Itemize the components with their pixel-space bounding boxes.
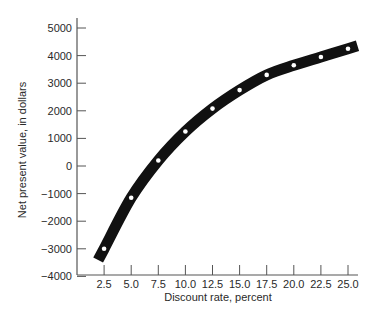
x-tick: 12.5 [202, 265, 223, 290]
y-tick-label: 1000 [48, 132, 72, 144]
npv-line [98, 46, 357, 260]
npv-curve [98, 46, 357, 260]
data-point-marker [210, 106, 215, 111]
x-tick-label: 2.5 [96, 278, 111, 290]
x-ticks: 2.55.07.510.012.515.017.520.022.525.0 [96, 265, 358, 290]
y-tick-label: −1000 [41, 188, 72, 200]
y-tick: 4000 [48, 50, 86, 62]
y-tick: 0 [66, 160, 86, 172]
y-tick-label: −4000 [41, 270, 72, 282]
data-point-marker [292, 63, 297, 68]
y-tick: 5000 [48, 22, 86, 34]
y-tick: −1000 [41, 188, 86, 200]
x-tick: 10.0 [175, 265, 196, 290]
y-tick: 1000 [48, 132, 86, 144]
x-tick: 2.5 [96, 265, 111, 290]
y-tick: −3000 [41, 243, 86, 255]
x-tick-label: 7.5 [151, 278, 166, 290]
y-axis: 500040003000200010000−1000−2000−3000−400… [41, 18, 86, 282]
x-tick-label: 12.5 [202, 278, 223, 290]
y-tick: 2000 [48, 105, 86, 117]
x-tick: 20.0 [283, 265, 304, 290]
data-point-marker [346, 46, 351, 51]
y-tick-label: 3000 [48, 77, 72, 89]
x-axis: 2.55.07.510.012.515.017.520.022.525.0 [77, 265, 359, 290]
y-tick: −2000 [41, 215, 86, 227]
y-tick-label: −2000 [41, 215, 72, 227]
x-tick-label: 20.0 [283, 278, 304, 290]
y-tick: 3000 [48, 77, 86, 89]
y-axis-title: Net present value, in dollars [16, 81, 28, 218]
y-tick: −4000 [41, 270, 86, 282]
x-tick-label: 5.0 [124, 278, 139, 290]
x-tick-label: 22.5 [310, 278, 331, 290]
y-ticks: 500040003000200010000−1000−2000−3000−400… [41, 22, 86, 282]
y-tick-label: −3000 [41, 243, 72, 255]
y-tick-label: 5000 [48, 22, 72, 34]
x-axis-title: Discount rate, percent [164, 291, 272, 303]
y-tick-label: 4000 [48, 50, 72, 62]
data-point-marker [156, 158, 161, 163]
y-tick-label: 0 [66, 160, 72, 172]
data-point-marker [319, 55, 324, 60]
x-tick-label: 10.0 [175, 278, 196, 290]
data-point-marker [183, 129, 188, 134]
x-tick: 15.0 [229, 265, 250, 290]
data-point-marker [102, 247, 107, 252]
x-tick: 7.5 [151, 265, 166, 290]
x-tick: 25.0 [337, 265, 358, 290]
x-tick-label: 25.0 [337, 278, 358, 290]
x-tick: 22.5 [310, 265, 331, 290]
x-tick-label: 17.5 [256, 278, 277, 290]
data-point-marker [129, 195, 134, 200]
data-point-marker [237, 88, 242, 93]
x-tick: 5.0 [124, 265, 139, 290]
y-tick-label: 2000 [48, 105, 72, 117]
data-point-marker [264, 73, 269, 78]
x-tick: 17.5 [256, 265, 277, 290]
x-tick-label: 15.0 [229, 278, 250, 290]
npv-chart: 500040003000200010000−1000−2000−3000−400… [0, 0, 379, 321]
